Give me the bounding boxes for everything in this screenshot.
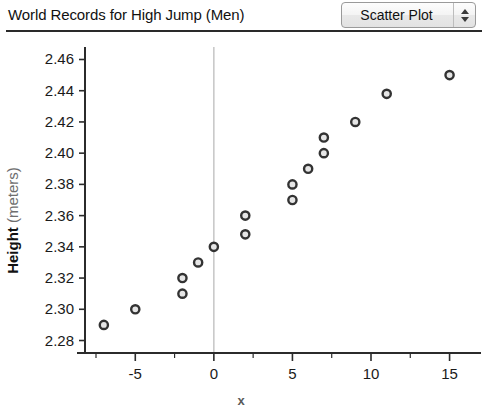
data-point[interactable]: [178, 290, 186, 298]
x-tick-label: 0: [210, 365, 218, 382]
y-tick-label: 2.32: [45, 269, 74, 286]
data-point[interactable]: [320, 133, 328, 141]
data-point[interactable]: [100, 321, 108, 329]
data-point[interactable]: [383, 90, 391, 98]
x-tick-label: 10: [363, 365, 380, 382]
y-axis-label-bold: Height: [4, 227, 21, 274]
page-title: World Records for High Jump (Men): [8, 5, 245, 25]
scatter-plot: 2.282.302.322.342.362.382.402.422.442.46…: [0, 31, 482, 407]
data-point[interactable]: [194, 258, 202, 266]
x-tick-label: 5: [288, 365, 296, 382]
y-tick-label: 2.38: [45, 175, 74, 192]
plot-type-value: Scatter Plot: [342, 7, 453, 23]
chart-header: World Records for High Jump (Men) Scatte…: [0, 0, 482, 31]
y-tick-label: 2.46: [45, 50, 74, 67]
stepper-up-arrow[interactable]: [461, 9, 469, 14]
plot-type-stepper[interactable]: [453, 3, 475, 27]
data-point[interactable]: [304, 165, 312, 173]
data-point[interactable]: [351, 118, 359, 126]
y-tick-label: 2.36: [45, 207, 74, 224]
stepper-down-arrow[interactable]: [461, 17, 469, 22]
data-point[interactable]: [288, 196, 296, 204]
plot-type-selector[interactable]: Scatter Plot: [341, 2, 476, 28]
y-tick-label: 2.40: [45, 144, 74, 161]
x-tick-label: -5: [129, 365, 142, 382]
data-point[interactable]: [241, 230, 249, 238]
data-point[interactable]: [320, 149, 328, 157]
plot-canvas: 2.282.302.322.342.362.382.402.422.442.46…: [0, 31, 482, 407]
y-tick-label: 2.28: [45, 332, 74, 349]
y-tick-label: 2.42: [45, 113, 74, 130]
y-tick-label: 2.30: [45, 300, 74, 317]
data-point[interactable]: [445, 71, 453, 79]
data-point[interactable]: [210, 243, 218, 251]
y-tick-label: 2.34: [45, 238, 74, 255]
data-point[interactable]: [178, 274, 186, 282]
data-point[interactable]: [241, 212, 249, 220]
data-point[interactable]: [288, 180, 296, 188]
x-tick-label: 15: [441, 365, 458, 382]
data-point[interactable]: [131, 305, 139, 313]
y-axis-label-light: (meters): [4, 167, 21, 223]
y-axis-label: Height (meters): [2, 127, 22, 317]
x-axis-label: x: [0, 393, 482, 407]
y-tick-label: 2.44: [45, 82, 74, 99]
